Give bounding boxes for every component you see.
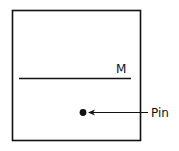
pin-label: Pin [151, 106, 169, 120]
diagram-canvas: M Pin [0, 0, 179, 151]
pin-dot [80, 109, 87, 116]
line-label-m: M [116, 62, 126, 76]
